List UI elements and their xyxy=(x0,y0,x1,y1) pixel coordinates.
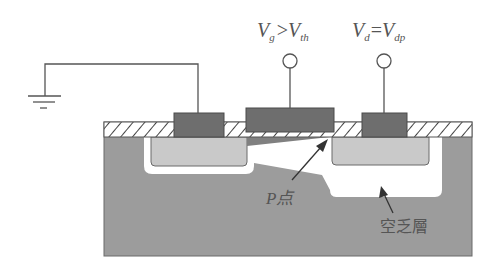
gate-voltage-label: Vg>Vth xyxy=(257,19,309,43)
drain-terminal-icon xyxy=(377,54,391,68)
drain-contact xyxy=(362,113,407,137)
drain-voltage-label: Vd=Vdp xyxy=(352,19,406,43)
drain-diffusion xyxy=(332,137,429,165)
gate-terminal-icon xyxy=(283,54,297,68)
mosfet-pinchoff-diagram: Vg>Vth Vd=Vdp P点 空乏層 xyxy=(0,0,498,268)
ground-icon xyxy=(28,96,61,108)
source-ground-wire xyxy=(45,64,198,113)
depletion-layer-label: 空乏層 xyxy=(380,217,428,236)
p-point-label: P点 xyxy=(265,189,295,208)
gate-electrode xyxy=(246,108,334,132)
source-diffusion xyxy=(151,137,247,166)
source-contact xyxy=(174,113,224,137)
